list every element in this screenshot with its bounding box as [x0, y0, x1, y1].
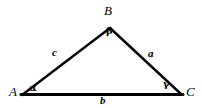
- angle-label-beta: β: [106, 26, 113, 36]
- side-label-b: b: [100, 95, 106, 106]
- angle-label-gamma: γ: [163, 79, 170, 89]
- side-label-a: a: [148, 48, 154, 59]
- vertex-label-b: B: [104, 4, 112, 17]
- vertex-label-a: A: [9, 85, 17, 98]
- angle-label-alpha: α: [29, 83, 37, 93]
- triangle-side-a-line: [110, 28, 181, 94]
- vertex-label-c: C: [186, 85, 195, 98]
- side-label-c: c: [52, 47, 57, 58]
- triangle-figure: A B C a b c α β γ: [0, 0, 202, 108]
